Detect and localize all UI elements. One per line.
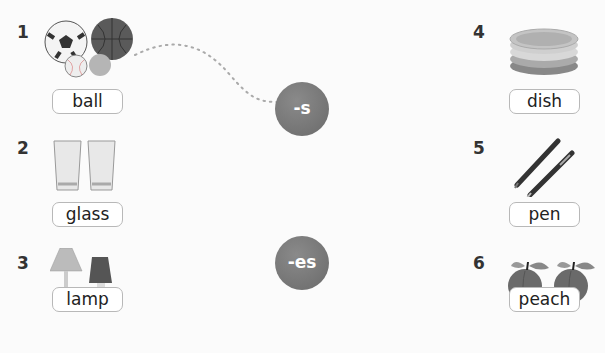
item-number-5: 5 <box>473 138 485 158</box>
word-label-glass[interactable]: glass <box>52 202 123 227</box>
word-label-peach[interactable]: peach <box>509 287 580 312</box>
word-label-pen[interactable]: pen <box>509 202 580 227</box>
balls-icon <box>42 18 138 80</box>
dishes-icon <box>508 28 580 78</box>
item-number-4: 4 <box>473 22 485 42</box>
item-number-2: 2 <box>17 138 29 158</box>
item-number-6: 6 <box>473 253 485 273</box>
word-label-lamp[interactable]: lamp <box>52 287 123 312</box>
item-number-3: 3 <box>17 253 29 273</box>
pens-icon <box>514 135 576 197</box>
ending-circle-es[interactable]: -es <box>275 236 329 290</box>
glasses-icon <box>53 140 118 192</box>
word-label-ball[interactable]: ball <box>52 89 123 114</box>
ending-circle-s[interactable]: -s <box>275 82 329 136</box>
word-label-dish[interactable]: dish <box>509 89 580 114</box>
item-number-1: 1 <box>17 22 29 42</box>
